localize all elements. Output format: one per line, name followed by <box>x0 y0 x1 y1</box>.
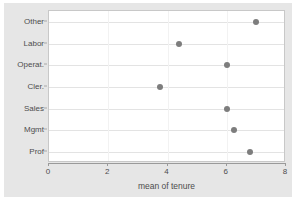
y-axis-label: Cler. <box>28 82 44 91</box>
x-axis-tick <box>167 163 168 166</box>
gridline <box>49 109 284 110</box>
data-point-marker <box>157 84 163 90</box>
vertical-gridline <box>108 11 109 161</box>
x-axis-tick-label: 8 <box>283 167 287 177</box>
gridline <box>49 130 284 131</box>
data-point-marker <box>253 19 259 25</box>
y-axis-tick <box>44 86 47 87</box>
data-point-marker <box>224 106 230 112</box>
gridline <box>49 87 284 88</box>
y-axis-label: Operat. <box>17 60 44 69</box>
x-axis-tick <box>48 163 49 166</box>
data-point-marker <box>176 41 182 47</box>
y-axis-label: Mgmt <box>24 125 44 134</box>
data-point-marker <box>247 149 253 155</box>
dot-plot-chart: OtherLaborOperat.Cler.SalesMgmtProf 0246… <box>0 0 296 209</box>
y-axis-tick <box>44 42 47 43</box>
y-axis-tick <box>44 151 47 152</box>
x-axis-tick-label: 2 <box>105 167 109 177</box>
x-axis-title: mean of tenure <box>48 181 285 191</box>
data-point-marker <box>231 127 237 133</box>
y-axis-label: Labor <box>24 38 44 47</box>
x-axis-tick-label: 6 <box>224 167 228 177</box>
vertical-gridline <box>168 11 169 161</box>
y-axis-label: Other <box>24 16 44 25</box>
gridline <box>49 44 284 45</box>
gridline <box>49 65 284 66</box>
y-axis-tick <box>44 64 47 65</box>
y-axis-tick <box>44 129 47 130</box>
plot-area <box>48 10 285 162</box>
x-axis-tick-label: 0 <box>46 167 50 177</box>
x-axis-tick <box>226 163 227 166</box>
y-axis-tick <box>44 107 47 108</box>
y-axis-label: Prof <box>29 147 44 156</box>
y-axis-labels: OtherLaborOperat.Cler.SalesMgmtProf <box>0 10 44 162</box>
x-axis-tick-label: 4 <box>164 167 168 177</box>
x-axis-tick <box>285 163 286 166</box>
y-axis-label: Sales <box>24 103 44 112</box>
y-axis-tick <box>44 20 47 21</box>
gridline <box>49 22 284 23</box>
vertical-gridline <box>227 11 228 161</box>
x-axis-tick <box>107 163 108 166</box>
data-point-marker <box>224 62 230 68</box>
